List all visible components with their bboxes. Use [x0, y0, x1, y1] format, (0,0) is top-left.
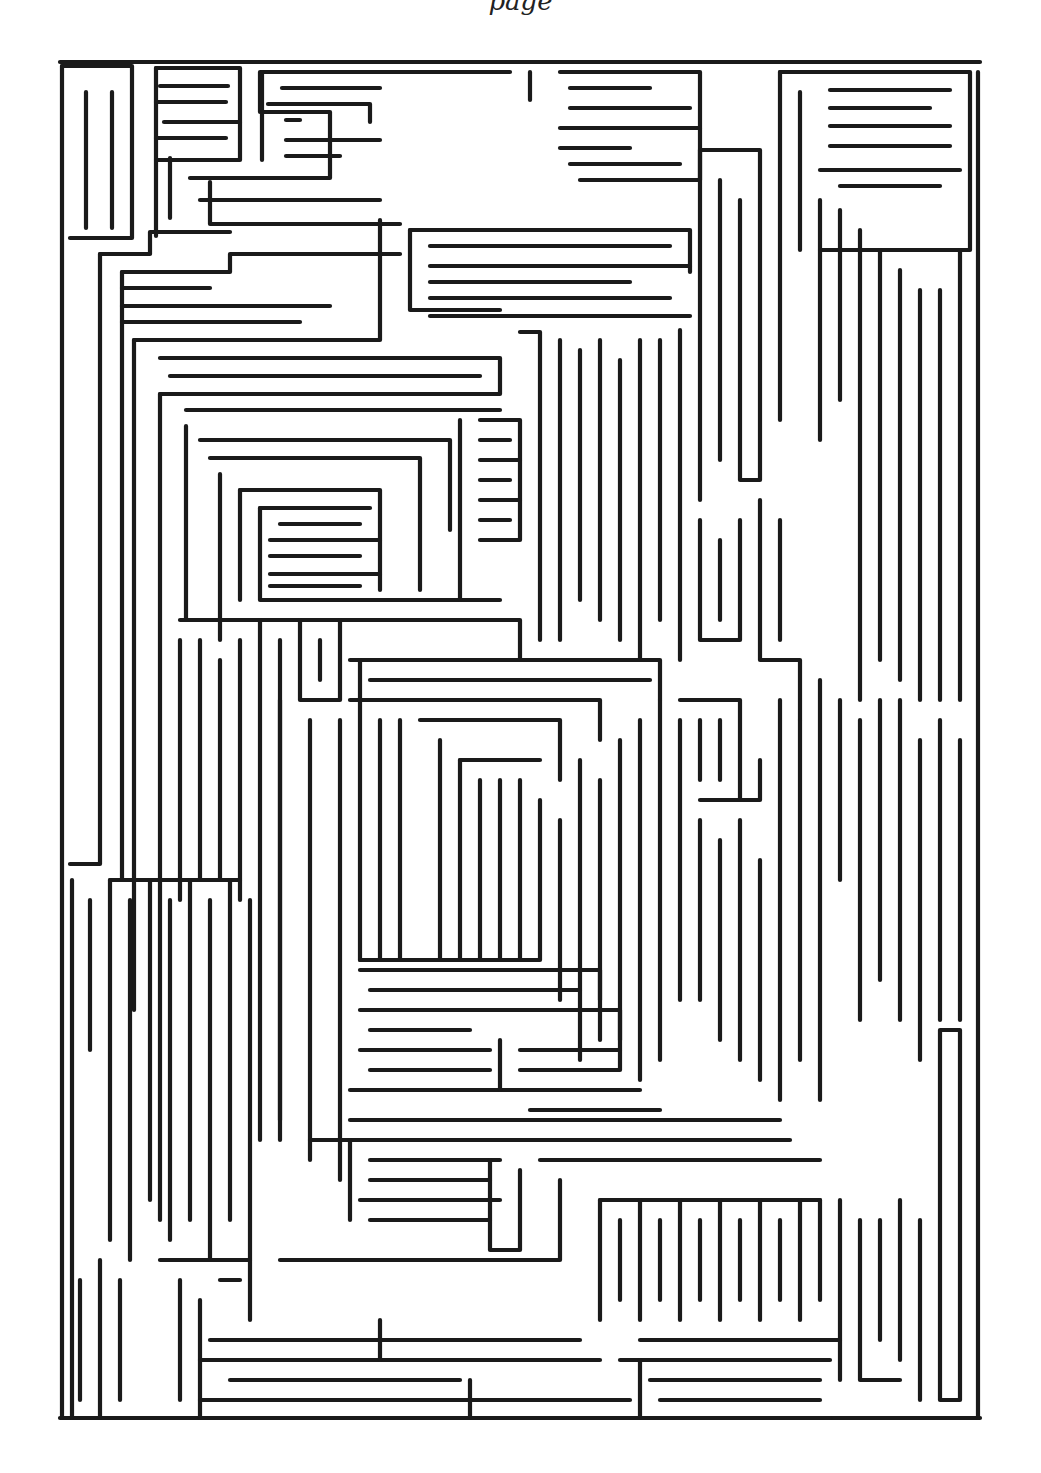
maze-wall [156, 68, 240, 160]
maze-wall [490, 1160, 520, 1250]
maze-wall [700, 150, 760, 480]
maze [0, 0, 1041, 1473]
maze-wall [200, 440, 450, 530]
maze-wall [210, 182, 400, 224]
maze-wall [780, 72, 970, 250]
maze-wall [122, 254, 400, 272]
maze-wall [360, 800, 540, 960]
maze-wall [62, 66, 132, 238]
maze-wall [360, 970, 600, 1000]
maze-wall [680, 700, 740, 800]
maze-wall [520, 332, 540, 640]
maze-wall [700, 760, 760, 800]
maze-wall [940, 1030, 960, 1400]
maze-walls [0, 0, 1041, 1473]
maze-wall [70, 254, 100, 864]
maze-wall [180, 620, 520, 660]
maze-wall [160, 1260, 250, 1320]
maze-wall [100, 232, 230, 254]
